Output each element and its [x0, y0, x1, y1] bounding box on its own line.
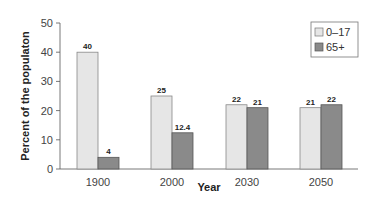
y-tick-label: 50: [41, 17, 53, 29]
x-tick-label: 2000: [160, 176, 184, 188]
bar-1900-0-17: [77, 52, 98, 169]
legend-swatch-0-17: [315, 28, 323, 36]
x-axis-title: Year: [197, 181, 221, 193]
x-tick-label: 1900: [86, 176, 110, 188]
y-tick-label: 30: [41, 75, 53, 87]
bar-value-label: 25: [157, 86, 166, 95]
bar-value-label: 4: [106, 147, 111, 156]
y-tick-label: 10: [41, 134, 53, 146]
bar-2030-0-17: [226, 105, 247, 169]
bar-value-label: 22: [327, 95, 336, 104]
y-axis: 01020304050: [41, 17, 60, 175]
x-tick-label: 2050: [309, 176, 333, 188]
bar-2000-0-17: [151, 96, 172, 169]
bar-value-label: 22: [232, 95, 241, 104]
bar-2050-65-plus: [321, 105, 342, 169]
bar-value-label: 40: [83, 42, 92, 51]
bar-value-label: 21: [253, 98, 262, 107]
y-axis-title: Percent of the populaton: [19, 31, 31, 161]
legend-label-0-17: 0–17: [326, 26, 350, 38]
bar-value-label: 12.4: [175, 123, 191, 132]
x-tick-label: 2030: [235, 176, 259, 188]
y-tick-label: 0: [47, 163, 53, 175]
bar-chart: 01020304050 1900200020302050 4042512.422…: [0, 0, 377, 199]
bar-2050-0-17: [300, 108, 321, 169]
bar-1900-65-plus: [98, 157, 119, 169]
legend: 0–17 65+: [311, 22, 358, 57]
bar-2030-65-plus: [247, 108, 268, 169]
bar-value-label: 21: [306, 98, 315, 107]
y-tick-label: 40: [41, 46, 53, 58]
legend-label-65-plus: 65+: [326, 41, 345, 53]
legend-swatch-65-plus: [315, 43, 323, 51]
y-tick-label: 20: [41, 105, 53, 117]
bars: 4042512.422212122: [77, 42, 342, 169]
bar-2000-65-plus: [172, 133, 193, 169]
